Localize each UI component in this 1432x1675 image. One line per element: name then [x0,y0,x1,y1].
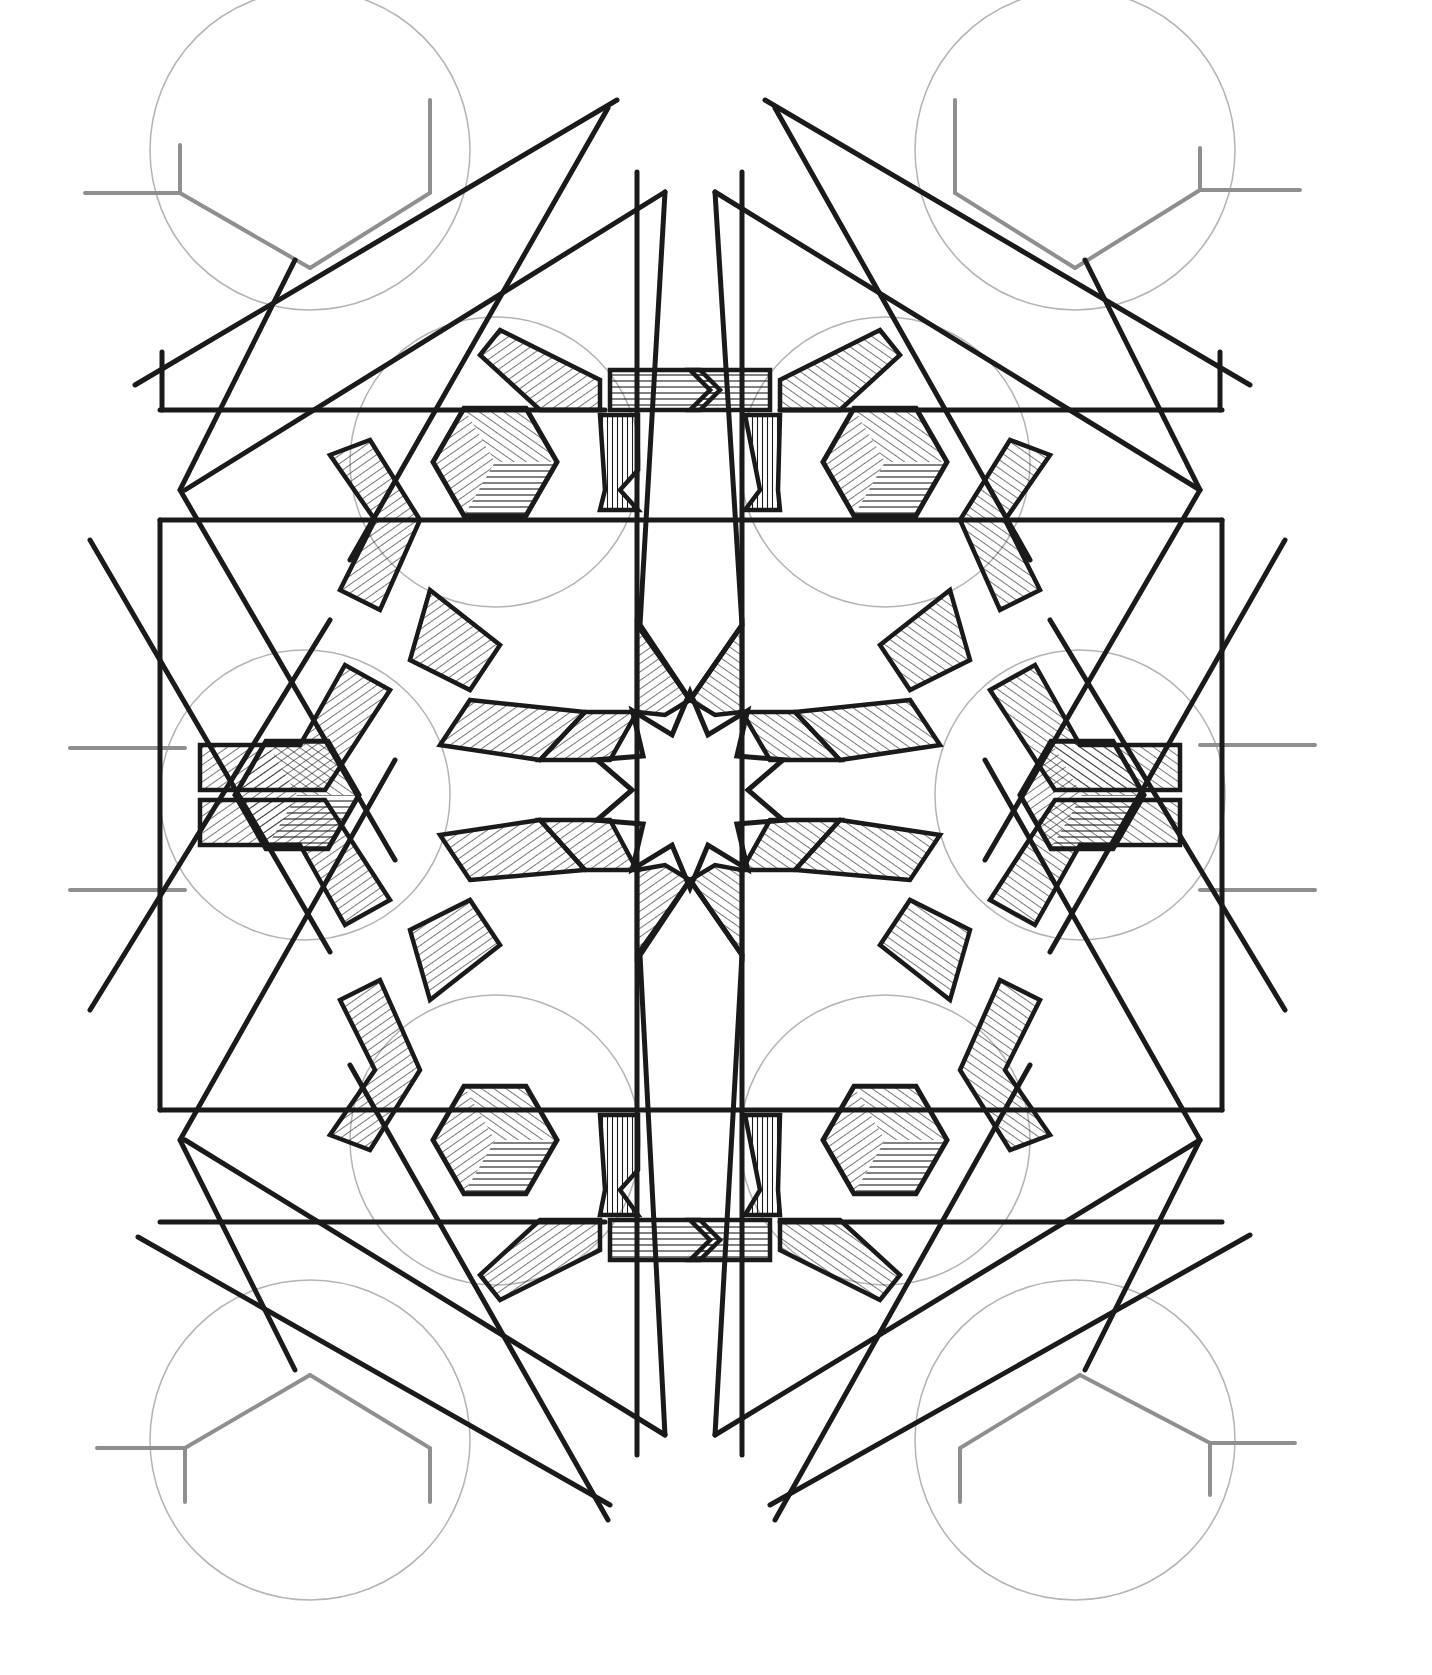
hex-cube [823,1086,947,1193]
construction-branch [180,193,310,268]
star-hatched-wedges [440,625,940,955]
hatched-strap-band [480,330,600,410]
hatched-strap-band [960,980,1050,1150]
hatched-strap-band [960,440,1050,610]
geometric-star-artwork [0,0,1432,1675]
hatched-strap-band [410,900,500,1000]
hatched-strap-band [480,1220,600,1300]
hatched-strap-band [780,330,900,410]
construction-branch [85,145,180,193]
construction-branch [1210,1443,1295,1495]
hatched-strap-band [330,980,420,1150]
ink-line [185,1140,665,1435]
construction-branch [955,100,1075,268]
construction-branch [1080,1375,1210,1443]
hatched-strap-band [880,900,970,1000]
hatched-strap-band [745,415,780,510]
construction-circle [915,1280,1235,1600]
star-wedge [637,865,690,955]
construction-branch [185,1375,310,1448]
construction-branch [960,1375,1080,1502]
construction-branch [97,1448,185,1502]
hatched-strap-band [410,590,500,690]
hatched-strap-band [745,1115,780,1215]
hatched-strap-band [600,415,638,510]
ink-line [690,192,742,700]
ink-line [135,100,617,385]
star-wedge [637,625,690,715]
hatched-strap-band [880,590,970,690]
ink-line [765,100,1250,385]
ink-line [640,192,690,700]
ink-line [640,880,690,1435]
hex-cube [823,408,947,515]
construction-branch [310,100,430,268]
construction-circle [150,0,470,310]
ink-line [690,880,742,1435]
construction-circle [915,0,1235,310]
construction-branch [1075,190,1200,268]
construction-branch [1200,148,1300,190]
hatched-strap-band [780,1220,900,1300]
hex-cube [433,408,557,515]
hex-cube [433,1086,557,1193]
hatched-strap-band [600,1115,638,1215]
